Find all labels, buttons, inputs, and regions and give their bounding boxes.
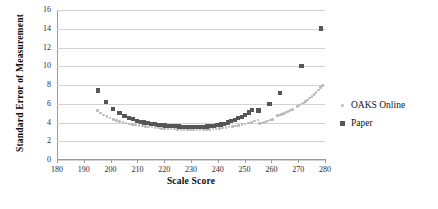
data-point [122, 114, 126, 118]
data-point [247, 122, 250, 125]
data-point [134, 124, 137, 127]
data-point [234, 125, 237, 128]
x-axis-title: Scale Score [56, 176, 326, 186]
data-point [241, 123, 244, 126]
data-point [104, 100, 108, 104]
x-tick-label: 280 [310, 165, 340, 174]
data-point [319, 26, 323, 30]
legend-label: Paper [351, 118, 373, 128]
x-tick-label: 250 [230, 165, 260, 174]
x-tick-label: 260 [256, 165, 286, 174]
circle-marker-icon [336, 104, 348, 107]
data-point [321, 84, 324, 87]
data-point [267, 102, 271, 106]
y-tick-label: 16 [25, 5, 51, 14]
x-tick-label: 210 [122, 165, 152, 174]
x-tick-label: 240 [203, 165, 233, 174]
y-tick-label: 10 [25, 61, 51, 70]
x-tick [57, 159, 58, 163]
data-point [131, 123, 134, 126]
data-point [96, 88, 100, 92]
y-tick-label: 4 [25, 118, 51, 127]
y-tick-label: 2 [25, 136, 51, 145]
data-point [128, 123, 131, 126]
data-point [291, 108, 294, 111]
data-point [111, 107, 115, 111]
y-tick-label: 6 [25, 99, 51, 108]
data-point [118, 120, 121, 123]
data-point [278, 91, 282, 95]
data-point [256, 108, 260, 112]
x-tick [84, 159, 85, 163]
x-tick [245, 159, 246, 163]
x-tick-label: 200 [96, 165, 126, 174]
y-tick-label: 0 [25, 155, 51, 164]
data-point [221, 127, 224, 130]
data-point [315, 91, 318, 94]
x-tick [164, 159, 165, 163]
gridline [57, 66, 325, 67]
gridline [57, 29, 325, 30]
data-point [250, 121, 253, 124]
data-point [144, 125, 147, 128]
data-point [117, 111, 121, 115]
data-point [225, 126, 228, 129]
x-tick-label: 180 [42, 165, 72, 174]
x-tick [271, 159, 272, 163]
data-point [237, 124, 240, 127]
y-tick-label: 14 [25, 24, 51, 33]
gridline [57, 10, 325, 11]
chart-container: Standard Error of Measurement 0246810121… [0, 0, 438, 209]
x-tick-label: 220 [149, 165, 179, 174]
data-point [317, 89, 320, 92]
data-point [141, 125, 144, 128]
data-point [250, 108, 254, 112]
data-point [299, 64, 303, 68]
data-point [228, 126, 231, 129]
x-tick-label: 230 [176, 165, 206, 174]
x-tick [218, 159, 219, 163]
gridline [57, 123, 325, 124]
x-tick [137, 159, 138, 163]
plot-area [57, 10, 325, 160]
y-tick-label: 8 [25, 80, 51, 89]
legend-label: OAKS Online [351, 100, 405, 110]
x-tick [111, 159, 112, 163]
gridline [57, 141, 325, 142]
x-tick [191, 159, 192, 163]
data-point [102, 114, 105, 117]
data-point [231, 125, 234, 128]
gridline [57, 104, 325, 105]
x-tick [298, 159, 299, 163]
square-marker-icon [336, 121, 348, 126]
data-point [257, 119, 260, 122]
data-point [112, 118, 115, 121]
x-tick [325, 159, 326, 163]
legend-item-oaks-online[interactable]: OAKS Online [336, 96, 405, 114]
data-point [109, 117, 112, 120]
x-tick-label: 190 [69, 165, 99, 174]
y-tick-label: 12 [25, 43, 51, 52]
gridline [57, 85, 325, 86]
legend-item-paper[interactable]: Paper [336, 114, 405, 132]
data-point [122, 121, 125, 124]
data-point [106, 115, 109, 118]
data-point [115, 119, 118, 122]
gridline [57, 48, 325, 49]
y-axis-title: Standard Error of Measurement [15, 3, 25, 163]
x-tick-label: 270 [283, 165, 313, 174]
chart-legend: OAKS Online Paper [336, 96, 405, 132]
data-point [271, 118, 274, 121]
data-point [138, 124, 141, 127]
